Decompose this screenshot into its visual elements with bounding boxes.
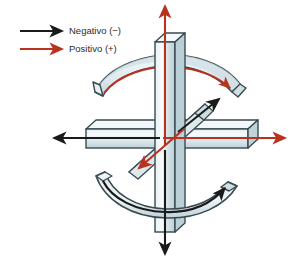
legend-item-positive: Positivo (+) [20,43,117,54]
legend: Negativo (−) Positivo (+) [20,25,121,54]
axes-convention-diagram: Negativo (−) Positivo (+) [0,0,291,260]
legend-positive-label: Positivo (+) [69,43,117,54]
legend-item-negative: Negativo (−) [20,25,121,36]
legend-negative-label: Negativo (−) [69,25,121,36]
figure-canvas: Negativo (−) Positivo (+) [0,0,291,260]
